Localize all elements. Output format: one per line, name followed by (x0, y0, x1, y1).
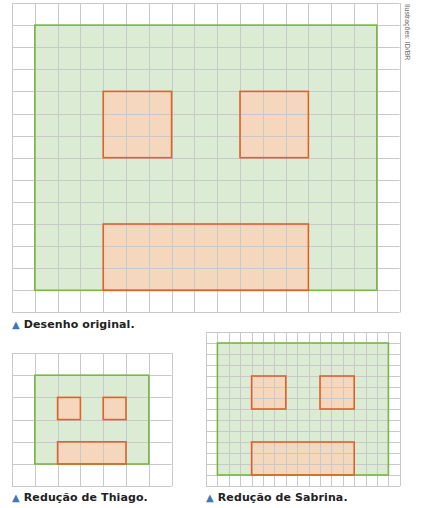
mouth-fill (58, 442, 126, 464)
right-eye-fill (240, 91, 308, 157)
triangle-marker-icon: ▲ (12, 319, 20, 330)
grid-thiago (12, 353, 173, 487)
grid-original (12, 3, 401, 313)
figure-thiago (12, 353, 173, 487)
caption-text: Desenho original. (24, 318, 135, 331)
caption-original: ▲Desenho original. (12, 318, 135, 331)
triangle-marker-icon: ▲ (12, 492, 20, 503)
caption-thiago: ▲Redução de Thiago. (12, 491, 148, 504)
figure-original (12, 3, 401, 313)
figure-sabrina (206, 332, 401, 487)
mouth-fill (252, 442, 355, 475)
left-eye-fill (103, 91, 171, 157)
caption-sabrina: ▲Redução de Sabrina. (206, 491, 348, 504)
caption-text: Redução de Thiago. (24, 491, 148, 504)
left-eye-fill (252, 376, 286, 409)
right-eye-fill (103, 397, 126, 419)
right-eye-fill (320, 376, 354, 409)
triangle-marker-icon: ▲ (206, 492, 214, 503)
mouth-fill (103, 224, 308, 290)
caption-text: Redução de Sabrina. (218, 491, 348, 504)
grid-sabrina (206, 332, 401, 487)
left-eye-fill (58, 397, 81, 419)
illustration-credit: Ilustrações: ID/BR (404, 4, 411, 60)
